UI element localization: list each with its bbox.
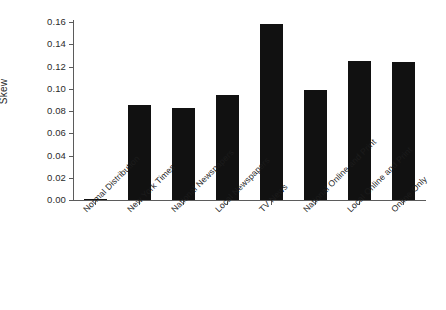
y-tick-label: 0.00: [47, 194, 66, 205]
y-tick-label-wrap: 0.10: [26, 83, 66, 94]
y-tick-label: 0.02: [47, 172, 66, 183]
y-tick-label: 0.10: [47, 83, 66, 94]
y-tick-label: 0.16: [47, 16, 66, 27]
y-tick-label-wrap: 0.14: [26, 38, 66, 49]
y-tick-label-wrap: 0.00: [26, 194, 66, 205]
y-tick-label: 0.06: [47, 127, 66, 138]
bar-chart: Skew 0.160.140.120.100.080.060.040.020.0…: [0, 0, 446, 310]
y-tick-label-wrap: 0.16: [26, 16, 66, 27]
y-tick-label-wrap: 0.08: [26, 105, 66, 116]
bar: [348, 61, 371, 200]
y-tick-label-wrap: 0.04: [26, 150, 66, 161]
bar: [260, 24, 283, 200]
y-tick-label: 0.08: [47, 105, 66, 116]
y-tick-label-wrap: 0.12: [26, 61, 66, 72]
y-tick-label-wrap: 0.06: [26, 127, 66, 138]
bar: [392, 62, 415, 200]
y-tick-label-wrap: 0.02: [26, 172, 66, 183]
x-axis-line: [73, 200, 426, 201]
y-tick-label: 0.04: [47, 150, 66, 161]
y-axis-title: Skew: [0, 79, 9, 104]
y-tick-mark: [69, 200, 73, 201]
y-tick-label: 0.12: [47, 61, 66, 72]
y-tick-label: 0.14: [47, 38, 66, 49]
